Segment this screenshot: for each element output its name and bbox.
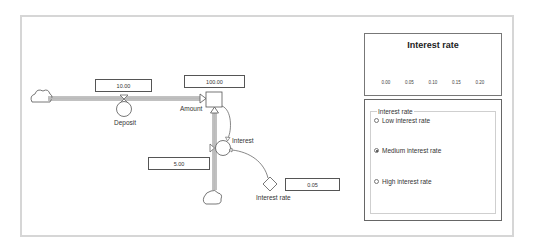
interest-rate-slider-panel: Interest rate — [364, 33, 502, 96]
radio-label: Medium interest rate — [382, 147, 441, 154]
flow-arrowhead-icon — [200, 94, 206, 103]
radio-label: Low interest rate — [382, 117, 430, 124]
interest-rate-auxiliary-icon — [263, 177, 277, 191]
radio-button-icon[interactable] — [374, 118, 379, 123]
interest-rate-value-box: 0.05 — [285, 178, 340, 191]
slider-tick-label: 0.20 — [476, 80, 485, 85]
radio-button-icon[interactable] — [374, 179, 379, 184]
radio-low-interest[interactable]: Low interest rate — [374, 117, 430, 124]
amount-stock-icon — [206, 92, 222, 107]
slider-tick-label: 0.00 — [382, 80, 391, 85]
interest-label: Interest — [232, 137, 254, 144]
interest-rate-label: Interest rate — [256, 194, 291, 201]
slider-title: Interest rate — [365, 40, 501, 50]
slider-tick-label: 0.05 — [405, 80, 414, 85]
radio-high-interest[interactable]: High interest rate — [374, 178, 432, 185]
radio-label: High interest rate — [382, 178, 432, 185]
slider-tick-label: 0.15 — [452, 80, 461, 85]
slider-tick-label: 0.10 — [429, 80, 438, 85]
amount-label: Amount — [180, 105, 202, 112]
radio-button-checked-icon[interactable] — [374, 148, 379, 153]
interest-rate-radio-group: Interest rate Low interest rate Medium i… — [370, 111, 496, 214]
interest-value-box: 5.00 — [148, 157, 210, 170]
connector-arrow — [232, 150, 268, 178]
interest-flow-pipe — [213, 113, 216, 190]
radio-medium-interest[interactable]: Medium interest rate — [374, 147, 441, 154]
amount-value-box: 100.00 — [184, 75, 245, 88]
cloud-icon — [203, 190, 221, 204]
flow-arrowhead-icon — [211, 107, 219, 113]
radio-group-legend: Interest rate — [377, 108, 414, 115]
interest-rate-radio-panel: Interest rate Low interest rate Medium i… — [364, 99, 502, 221]
connector-arrow — [222, 106, 230, 138]
deposit-label: Deposit — [114, 119, 136, 126]
deposit-value-box: 10.00 — [95, 79, 152, 92]
